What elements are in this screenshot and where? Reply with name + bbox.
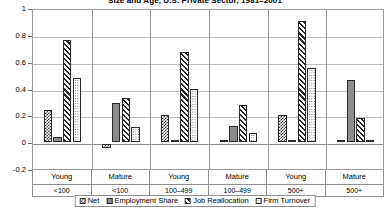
bar-net — [278, 115, 286, 142]
x-axis-size-label: 500+ — [326, 185, 384, 196]
bar-net — [161, 115, 169, 142]
plot-area — [32, 9, 384, 170]
bar-job-reallocation — [63, 40, 71, 142]
x-axis-age-label: Young — [33, 170, 92, 184]
bar-net — [44, 110, 52, 142]
bar-group — [33, 10, 92, 169]
bar-group — [92, 10, 151, 169]
y-axis-tick-label: 1 — [22, 5, 26, 13]
bar-employment-share — [112, 103, 120, 142]
group-separator — [150, 10, 151, 169]
legend-item: Firm Turnover — [256, 197, 311, 205]
legend-item: Net — [80, 197, 100, 205]
bars-layer — [33, 10, 383, 169]
bar-net — [220, 140, 228, 142]
x-axis-age-label: Mature — [92, 170, 151, 184]
y-axis-tick-label: 0.8 — [16, 32, 26, 40]
bar-employment-share — [347, 80, 355, 142]
bar-job-reallocation — [180, 52, 188, 142]
bar-chart: Size and Age, U.S. Private Sector, 1981–… — [0, 0, 390, 210]
group-separator — [209, 10, 210, 169]
y-axis-tick-label: 0.6 — [16, 59, 26, 67]
group-separator — [326, 10, 327, 169]
y-axis-tick-label: 0.4 — [16, 86, 26, 94]
x-axis-age-label: Mature — [209, 170, 268, 184]
bar-employment-share — [288, 140, 296, 142]
legend-label: Job Reallocation — [193, 197, 248, 205]
group-separator — [92, 10, 93, 169]
bar-group — [268, 10, 327, 169]
x-axis-age-row: YoungMatureYoungMatureYoungMature — [32, 170, 384, 185]
legend-swatch-icon — [106, 198, 112, 204]
legend-label: Employment Share — [114, 197, 178, 205]
x-axis-age-label: Young — [267, 170, 326, 184]
bar-employment-share — [229, 126, 237, 142]
y-axis: 10.80.60.40.20-0.2 — [0, 9, 32, 170]
bar-job-reallocation — [356, 118, 364, 142]
x-axis-age-label: Young — [150, 170, 209, 184]
x-axis: YoungMatureYoungMatureYoungMature <100<1… — [32, 170, 384, 197]
y-axis-tick-label: 0 — [22, 139, 26, 147]
chart-title: Size and Age, U.S. Private Sector, 1981–… — [0, 0, 390, 5]
legend-swatch-icon — [256, 198, 262, 204]
bar-job-reallocation — [122, 98, 130, 142]
bar-firm-turnover — [131, 127, 139, 142]
bar-firm-turnover — [190, 89, 198, 143]
bar-group — [150, 10, 209, 169]
bar-group — [209, 10, 268, 169]
bar-firm-turnover — [249, 133, 257, 142]
bar-firm-turnover — [73, 78, 81, 142]
x-axis-age-label: Mature — [326, 170, 384, 184]
bar-net — [102, 144, 110, 148]
y-axis-tick-label: -0.2 — [13, 166, 26, 174]
legend-item: Employment Share — [106, 197, 178, 205]
bar-employment-share — [171, 140, 179, 142]
bar-employment-share — [53, 137, 61, 142]
bar-group — [326, 10, 385, 169]
bar-firm-turnover — [366, 140, 374, 143]
legend-item: Job Reallocation — [185, 197, 248, 205]
bar-firm-turnover — [307, 68, 315, 142]
legend-label: Net — [88, 197, 100, 205]
chart-legend: NetEmployment ShareJob ReallocationFirm … — [75, 195, 316, 207]
bar-job-reallocation — [239, 105, 247, 143]
group-separator — [268, 10, 269, 169]
legend-swatch-icon — [80, 198, 86, 204]
bar-job-reallocation — [298, 21, 306, 142]
y-axis-tick-label: 0.2 — [16, 113, 26, 121]
legend-label: Firm Turnover — [264, 197, 311, 205]
legend-swatch-icon — [185, 198, 191, 204]
bar-net — [337, 140, 345, 142]
